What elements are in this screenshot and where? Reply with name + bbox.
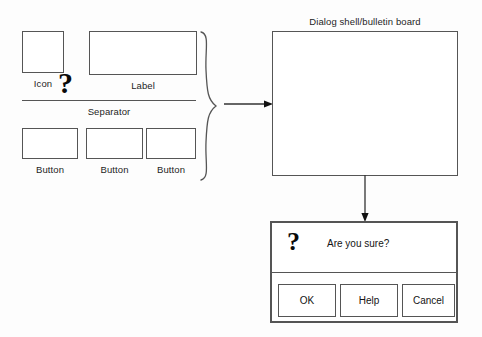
separator-line xyxy=(22,100,196,101)
dialog-separator xyxy=(270,272,458,273)
dialog-shell-caption: Dialog shell/bulletin board xyxy=(272,16,458,27)
dialog-shell-box xyxy=(272,31,458,176)
help-button[interactable]: Help xyxy=(340,284,398,317)
button-placeholder-box xyxy=(22,128,78,159)
icon-caption: Icon xyxy=(22,78,64,89)
button-placeholder-box xyxy=(146,128,196,159)
button-caption: Button xyxy=(86,164,143,175)
dialog-message-text: Are you sure? xyxy=(327,238,389,249)
arrow-to-shell-icon xyxy=(224,97,274,111)
label-caption: Label xyxy=(89,80,197,91)
diagram-canvas: ? Icon Label Separator Button Button But… xyxy=(0,0,482,337)
button-placeholder-box xyxy=(86,128,143,159)
ok-button[interactable]: OK xyxy=(278,284,336,317)
connector-arrow-icon xyxy=(356,175,374,223)
button-caption: Button xyxy=(146,164,196,175)
question-mark-icon: ? xyxy=(287,229,300,255)
cancel-button[interactable]: Cancel xyxy=(402,284,455,317)
separator-caption: Separator xyxy=(22,106,196,117)
grouping-brace xyxy=(198,30,218,182)
icon-placeholder-box: ? xyxy=(22,31,64,73)
label-placeholder-box xyxy=(89,31,197,75)
button-caption: Button xyxy=(22,164,78,175)
